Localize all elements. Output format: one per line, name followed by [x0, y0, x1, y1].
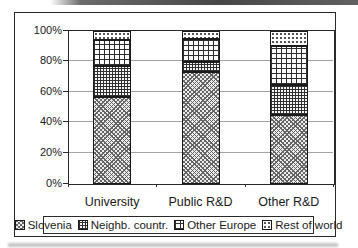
y-axis-tick-40% [63, 121, 68, 122]
bar-segment-other-r-d-neighb-countr [270, 85, 308, 116]
x-axis-tick [68, 184, 69, 187]
y-axis-tick-60% [63, 91, 68, 92]
bar-segment-university-slovenia [93, 97, 131, 184]
legend-item-slovenia: Slovenia [15, 219, 72, 231]
scan-artifact-top [50, 0, 358, 5]
x-axis-tick [156, 184, 157, 187]
y-axis-tick-100% [63, 30, 68, 31]
legend-label-other-europe: Other Europe [187, 219, 256, 231]
y-axis-label: 100% [20, 24, 62, 37]
y-axis-label: 0% [20, 177, 62, 190]
bar-segment-public-r-d-rest-of-world [182, 31, 220, 39]
bar-segment-public-r-d-other-europe [182, 39, 220, 62]
scan-artifact-bottom [8, 243, 338, 247]
legend-swatch-neighb-countr-icon [78, 220, 88, 230]
legend-swatch-rest-of-world-icon [262, 220, 272, 230]
legend-swatch-other-europe-icon [174, 220, 184, 230]
legend-item-rest-of-world: Rest of world [262, 219, 342, 231]
y-axis-label: 60% [20, 85, 62, 98]
x-axis-tick [245, 184, 246, 187]
legend-label-slovenia: Slovenia [28, 219, 72, 231]
legend-item-other-europe: Other Europe [174, 219, 256, 231]
legend-swatch-slovenia-icon [15, 220, 25, 230]
legend-item-neighb-countr: Neighb. countr. [78, 219, 168, 231]
x-axis-label-other-r-d: Other R&D [244, 195, 334, 209]
y-axis-label: 40% [20, 115, 62, 128]
bar-segment-other-r-d-rest-of-world [270, 31, 308, 46]
bar-segment-public-r-d-neighb-countr [182, 62, 220, 73]
y-axis-tick-80% [63, 60, 68, 61]
x-axis-tick [333, 184, 334, 187]
y-axis-label: 80% [20, 54, 62, 67]
legend: SloveniaNeighb. countr.Other EuropeRest … [43, 216, 314, 234]
bar-segment-university-rest-of-world [93, 31, 131, 40]
x-axis-label-university: University [67, 195, 157, 209]
y-axis-label: 20% [20, 146, 62, 159]
y-axis-tick-20% [63, 152, 68, 153]
bar-segment-other-r-d-slovenia [270, 115, 308, 184]
x-axis-label-public-r-d: Public R&D [156, 195, 246, 209]
legend-label-neighb-countr: Neighb. countr. [91, 219, 168, 231]
bar-segment-public-r-d-slovenia [182, 72, 220, 184]
bar-segment-other-r-d-other-europe [270, 46, 308, 84]
legend-label-rest-of-world: Rest of world [275, 219, 342, 231]
stacked-bar-chart-figure: 0%20%40%60%80%100% UniversityPublic R&DO… [0, 0, 358, 248]
bar-segment-university-other-europe [93, 40, 131, 66]
bar-segment-university-neighb-countr [93, 66, 131, 97]
